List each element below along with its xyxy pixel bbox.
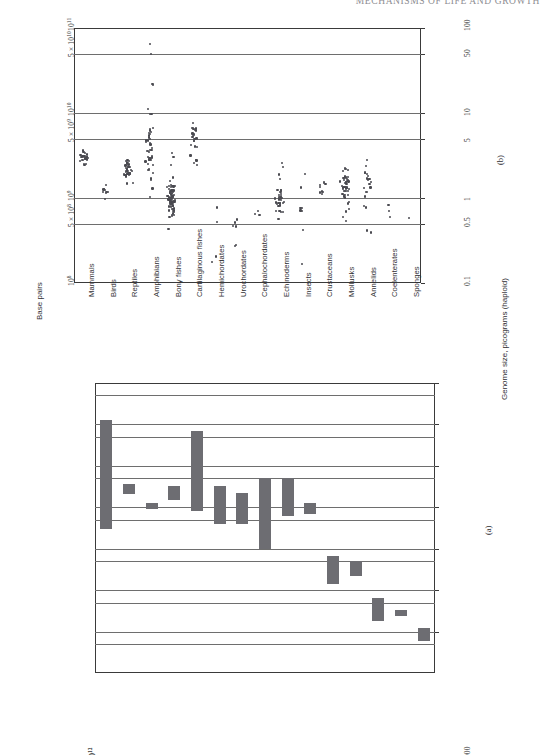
range-bar [100, 420, 112, 529]
tick-mark [435, 590, 439, 591]
tick-mark [435, 632, 439, 633]
scatter-point [366, 177, 368, 179]
scatter-point [366, 159, 368, 161]
tick-label-left: 1011 [66, 18, 76, 31]
scatter-point [408, 217, 410, 219]
range-bar [236, 493, 248, 524]
tick-mark [421, 224, 425, 225]
scatter-point [150, 179, 152, 181]
scatter-point [80, 156, 82, 158]
category-label: Birds [110, 279, 118, 297]
tick-label-right: 50 [463, 49, 472, 57]
tick-label-right: 5 [463, 138, 472, 142]
scatter-point [193, 140, 195, 142]
tick-label-left: 5 × 1011 [87, 748, 97, 755]
scatter-point [190, 144, 192, 146]
scatter-point [234, 221, 236, 223]
category-label: Insects [305, 272, 313, 297]
scatter-point [145, 139, 147, 141]
range-bar [214, 486, 226, 523]
scatter-point [167, 228, 169, 230]
scatter-point [319, 191, 321, 193]
scatter-point [281, 162, 283, 164]
scatter-point [344, 168, 346, 170]
scatter-point [192, 122, 194, 124]
tick-label-right: 1000 [463, 746, 472, 755]
scatter-point [151, 187, 153, 189]
scatter-point [344, 182, 346, 184]
scatter-point [130, 169, 132, 171]
scatter-point [171, 195, 173, 197]
scatter-point [279, 191, 281, 193]
tick-label-right: 100 [463, 19, 472, 31]
tick-label-left: 5 × 109 [66, 119, 76, 142]
scatter-point [321, 193, 323, 195]
scatter-point [172, 176, 174, 178]
category-label: Bony fishes [175, 257, 183, 297]
tick-label-left: 109 [66, 190, 76, 201]
range-bar [350, 561, 362, 576]
figure-b-data-points [74, 28, 421, 283]
scatter-point [300, 186, 302, 188]
scatter-point [279, 204, 281, 206]
scatter-point [152, 164, 154, 166]
scatter-point [365, 165, 367, 167]
scatter-point [126, 182, 128, 184]
scatter-point [149, 43, 151, 45]
scatter-point [387, 204, 389, 206]
tick-label-left: 5 × 1010 [66, 31, 76, 57]
tick-label-left: 5 × 108 [66, 204, 76, 227]
scatter-point [102, 188, 104, 190]
tick-mark [435, 507, 439, 508]
tick-mark [421, 54, 425, 55]
scatter-point [282, 166, 284, 168]
scatter-point [274, 197, 276, 199]
tick-label-right: 10 [463, 108, 472, 116]
scatter-point [172, 156, 174, 158]
scatter-point [279, 178, 281, 180]
scatter-point [235, 225, 237, 227]
scatter-point [369, 186, 371, 188]
category-label: Mammals [88, 263, 96, 297]
scatter-point [388, 210, 390, 212]
figure-a-range-bars: 10125 × 101110115 × 101010105 × 1091095 … [0, 375, 545, 755]
scatter-point [345, 210, 347, 212]
figure-b-scatter: 10115 × 101010105 × 1091095 × 108108 100… [0, 0, 545, 375]
range-bar [191, 431, 203, 511]
scatter-point [342, 216, 344, 218]
range-bar [282, 478, 294, 516]
scatter-point [364, 195, 366, 197]
range-bar [123, 484, 135, 494]
figure-b-panel-tag: (b) [495, 155, 505, 165]
scatter-point [127, 172, 129, 174]
scatter-point [148, 151, 150, 153]
scatter-point [174, 199, 176, 201]
scatter-point [258, 214, 260, 216]
scatter-point [279, 198, 281, 200]
scatter-point [169, 191, 171, 193]
scatter-point [196, 164, 198, 166]
range-bar [372, 598, 384, 621]
scatter-point [152, 172, 154, 174]
scatter-point [196, 146, 198, 148]
tick-label-right: 1 [463, 197, 472, 201]
scatter-point [107, 191, 109, 193]
range-bar [327, 556, 339, 584]
tick-label-left: 108 [66, 275, 76, 286]
scatter-point [144, 160, 146, 162]
scatter-point [348, 208, 350, 210]
tick-mark [421, 139, 425, 140]
scatter-point [170, 164, 172, 166]
scatter-point [149, 142, 151, 144]
scatter-point [347, 202, 349, 204]
scatter-point [172, 190, 174, 192]
scatter-point [254, 213, 256, 215]
scatter-point [344, 196, 346, 198]
tick-mark [435, 424, 439, 425]
scatter-point [344, 175, 346, 177]
figure-a-bars [95, 383, 435, 673]
range-bar [418, 628, 430, 640]
scatter-point [216, 221, 218, 223]
scatter-point [324, 183, 326, 185]
tick-mark [421, 113, 425, 114]
